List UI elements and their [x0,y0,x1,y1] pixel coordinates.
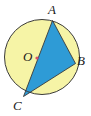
point-label-b: B [77,54,85,67]
geometry-figure: A B C O [0,0,91,116]
point-label-o: O [23,50,32,63]
point-label-a: A [48,3,56,16]
center-point-dot [35,56,38,59]
point-label-c: C [13,99,22,112]
